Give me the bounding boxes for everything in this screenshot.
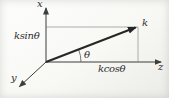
vector-decomposition-diagram: x k ksinθ θ kcosθ z y: [0, 0, 169, 98]
x-axis-label: x: [37, 0, 42, 9]
z-axis-label: z: [158, 61, 163, 72]
z-component-label: kcosθ: [98, 63, 125, 74]
angle-theta-label: θ: [84, 49, 90, 60]
vector-k-line: [46, 28, 136, 63]
angle-arc: [79, 50, 81, 62]
vector-k-label: k: [142, 17, 148, 28]
y-axis-label: y: [11, 72, 16, 83]
y-axis-line: [20, 62, 47, 87]
x-component-label: ksinθ: [14, 30, 39, 41]
